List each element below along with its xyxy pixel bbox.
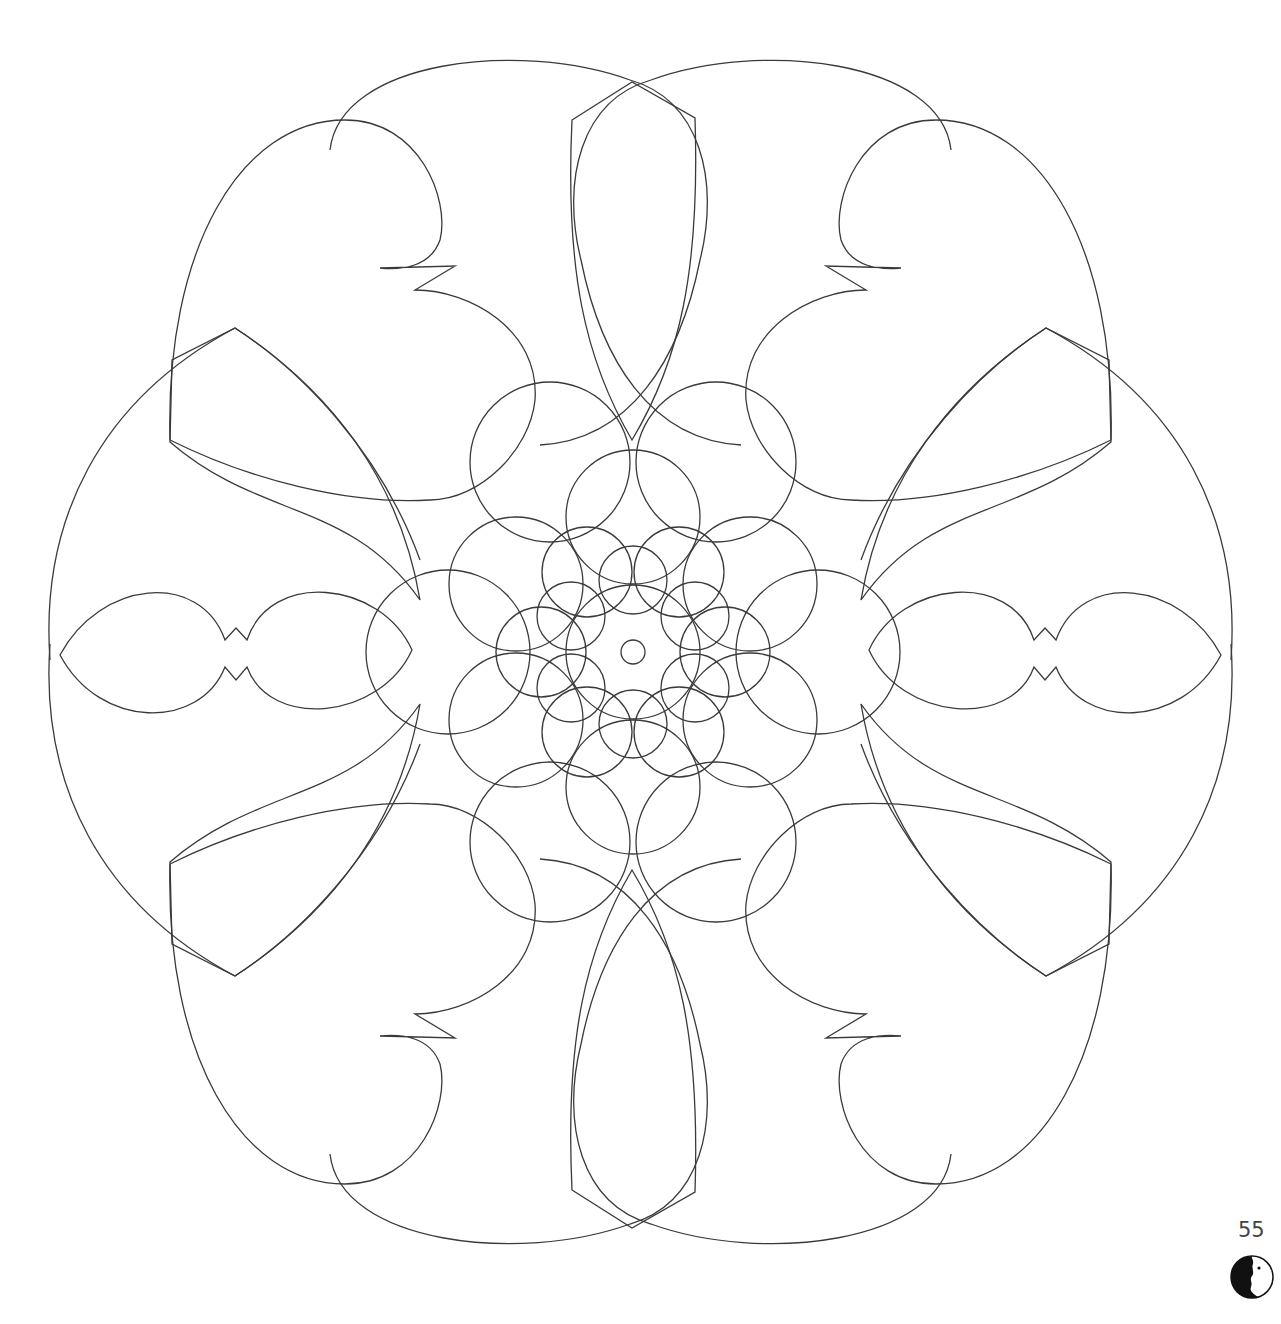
side-loops [60, 592, 1221, 713]
shields [170, 82, 1111, 1228]
petal-ring-3 [449, 450, 817, 854]
center-dot [621, 640, 645, 664]
page-number: 55 [1238, 1218, 1265, 1242]
mandala-illustration [0, 0, 1281, 1324]
yin-yang-face-icon [1229, 1254, 1275, 1300]
petal-ring-4 [366, 382, 900, 922]
outer-lobes [49, 60, 1232, 1243]
petal-ring-2 [496, 527, 770, 777]
